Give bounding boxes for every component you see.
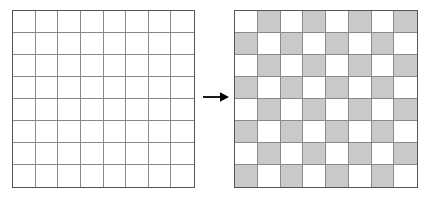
grid-cell [13, 33, 36, 55]
grid-cell [235, 11, 258, 33]
grid-cell [258, 11, 281, 33]
grid-cell [171, 99, 194, 121]
grid-cell [126, 121, 149, 143]
grid-cell [372, 11, 395, 33]
grid-cell [13, 99, 36, 121]
grid-cell [258, 143, 281, 165]
grid-cell [326, 165, 349, 187]
grid-cell [126, 99, 149, 121]
grid-cell [281, 165, 304, 187]
grid-cell [394, 99, 417, 121]
grid-cell [235, 165, 258, 187]
grid-cell [349, 11, 372, 33]
grid-cell [36, 77, 59, 99]
grid-cell [36, 165, 59, 187]
grid-cell [326, 143, 349, 165]
grid-cell [149, 143, 172, 165]
grid-cell [81, 11, 104, 33]
grid-cell [104, 77, 127, 99]
grid-cell [235, 55, 258, 77]
grid-cell [281, 99, 304, 121]
grid-cell [349, 77, 372, 99]
grid-cell [149, 99, 172, 121]
grid-cell [149, 33, 172, 55]
grid-cell [36, 143, 59, 165]
grid-cell [171, 55, 194, 77]
grid-cell [303, 11, 326, 33]
grid-cell [126, 143, 149, 165]
grid-cell [126, 55, 149, 77]
grid-cell [394, 55, 417, 77]
grid-cell [81, 121, 104, 143]
grid-cell [303, 165, 326, 187]
grid-cell [349, 165, 372, 187]
grid-cell [104, 11, 127, 33]
grid-cell [149, 121, 172, 143]
grid-cell [126, 165, 149, 187]
grid-cell [58, 99, 81, 121]
grid-cell [171, 77, 194, 99]
grid-cell [394, 165, 417, 187]
grid-cell [81, 77, 104, 99]
grid-cell [281, 33, 304, 55]
grid-cell [104, 99, 127, 121]
grid-cell [126, 11, 149, 33]
grid-cell [58, 121, 81, 143]
grid-cell [303, 77, 326, 99]
grid-cell [36, 99, 59, 121]
grid-cell [81, 99, 104, 121]
grid-cell [81, 143, 104, 165]
grid-cell [281, 55, 304, 77]
figure-canvas [0, 0, 430, 199]
grid-cell [394, 121, 417, 143]
grid-cell [281, 143, 304, 165]
grid-cell [235, 99, 258, 121]
grid-cell [303, 143, 326, 165]
grid-cell [303, 33, 326, 55]
grid-cell [326, 55, 349, 77]
grid-cell [372, 165, 395, 187]
grid-cell [171, 143, 194, 165]
grid-cell [258, 77, 281, 99]
grid-cell [149, 55, 172, 77]
grid-cell [394, 143, 417, 165]
grid-cell [171, 121, 194, 143]
plain-grid [12, 10, 195, 188]
grid-cell [281, 121, 304, 143]
grid-cell [58, 143, 81, 165]
grid-cell [81, 33, 104, 55]
grid-cell [13, 77, 36, 99]
grid-cell [258, 99, 281, 121]
rightward-arrow-icon [202, 89, 230, 105]
grid-cell [149, 11, 172, 33]
grid-cell [149, 165, 172, 187]
grid-cell [394, 11, 417, 33]
grid-cell [58, 165, 81, 187]
grid-cell [372, 77, 395, 99]
grid-cell [171, 33, 194, 55]
grid-cell [394, 77, 417, 99]
grid-cell [258, 55, 281, 77]
grid-cell [235, 121, 258, 143]
grid-cell [126, 77, 149, 99]
grid-cell [36, 11, 59, 33]
checkerboard-grid [234, 10, 418, 188]
grid-cell [13, 55, 36, 77]
grid-cell [349, 33, 372, 55]
grid-cell [235, 77, 258, 99]
grid-cell [303, 55, 326, 77]
grid-cell [258, 33, 281, 55]
grid-cell [104, 143, 127, 165]
grid-cell [394, 33, 417, 55]
grid-cell [372, 99, 395, 121]
grid-cell [326, 33, 349, 55]
grid-cell [372, 121, 395, 143]
grid-cell [13, 143, 36, 165]
grid-cell [58, 33, 81, 55]
grid-cell [372, 55, 395, 77]
grid-cell [349, 99, 372, 121]
grid-cell [326, 99, 349, 121]
grid-cell [58, 77, 81, 99]
grid-cell [171, 11, 194, 33]
grid-cell [81, 165, 104, 187]
